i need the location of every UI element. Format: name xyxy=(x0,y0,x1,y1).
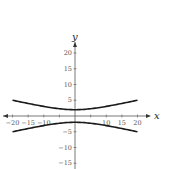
x-axis-label: x xyxy=(154,110,160,121)
hyperbola-chart: −20−15−101015202015105−5−10−15 x y xyxy=(0,0,170,169)
x-axis-arrow-left-icon xyxy=(3,114,8,118)
y-tick-label: 20 xyxy=(64,49,72,57)
x-axis-arrow-right-icon xyxy=(146,114,151,118)
x-tick-label: −20 xyxy=(6,119,20,127)
y-tick-label: −5 xyxy=(62,128,72,136)
axes xyxy=(3,42,151,169)
y-axis-label: y xyxy=(71,31,78,42)
x-tick-label: 20 xyxy=(133,119,141,127)
y-tick-label: 5 xyxy=(68,96,72,104)
y-axis-arrow-up-icon xyxy=(73,42,77,47)
y-tick-label: −15 xyxy=(58,159,72,167)
x-tick-label: 15 xyxy=(118,119,126,127)
y-tick-label: 10 xyxy=(64,81,72,89)
ticks: −20−15−101015202015105−5−10−15 xyxy=(6,49,142,167)
y-tick-label: −10 xyxy=(58,144,72,152)
x-tick-label: −15 xyxy=(21,119,35,127)
y-tick-label: 15 xyxy=(64,65,72,73)
